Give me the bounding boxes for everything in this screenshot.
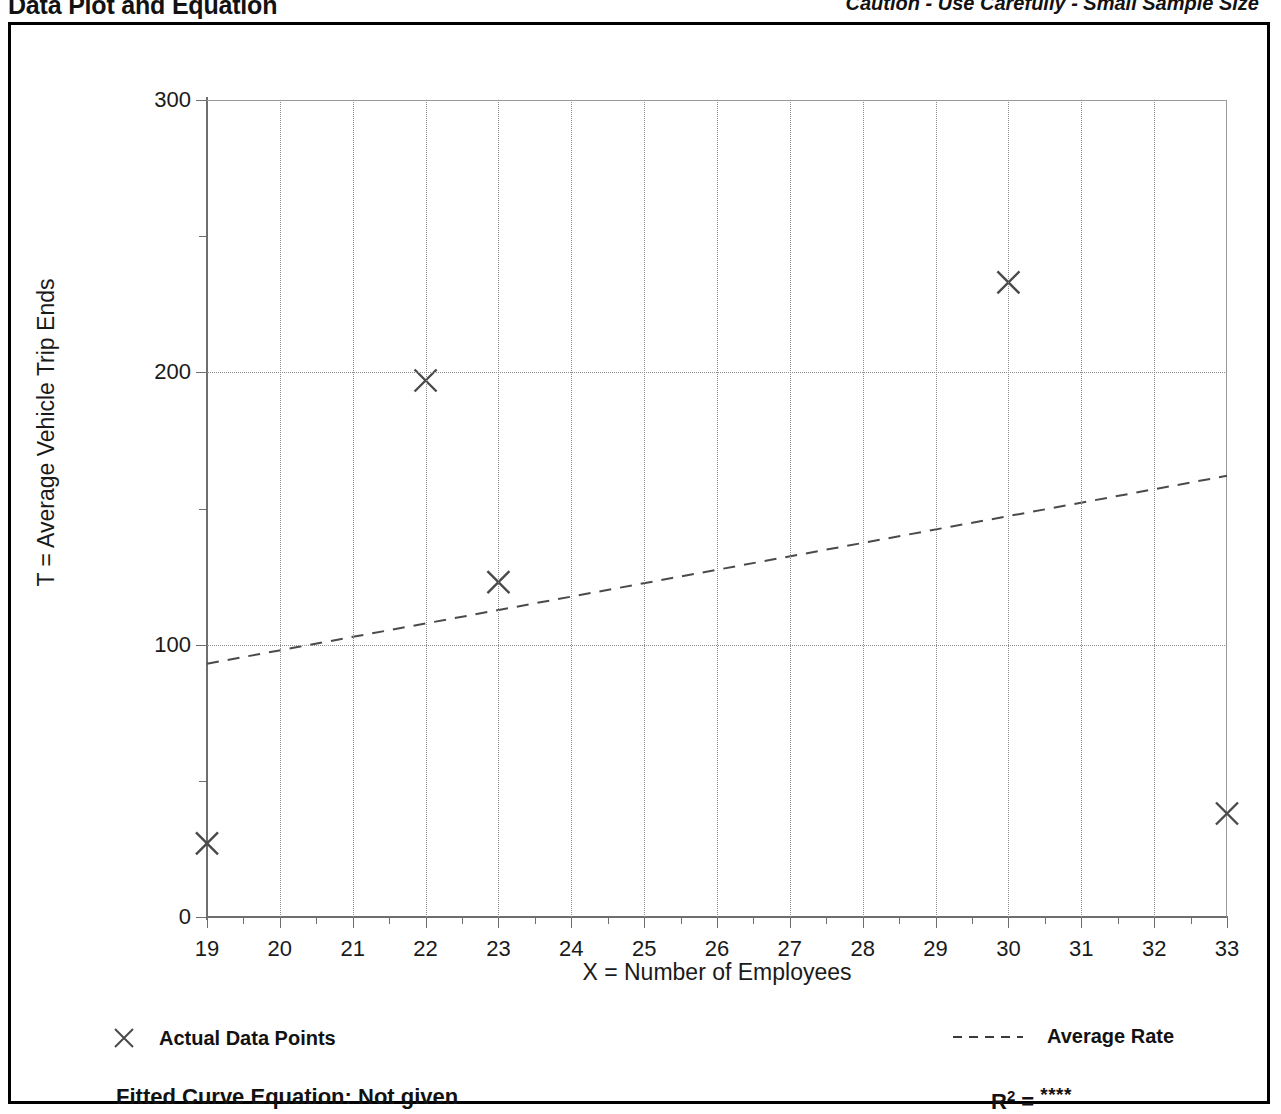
dashed-line-icon [951,1031,1025,1043]
x-axis-minor-tick [826,917,827,924]
plot-area: 0100200300192021222324252627282930313233 [207,100,1227,917]
x-axis-minor-tick [389,917,390,924]
gridline-vertical [498,100,499,917]
gridline-vertical [936,100,937,917]
legend-average-rate: Average Rate [951,1025,1174,1048]
x-axis-tick [426,917,427,928]
legend-label-actual-data-points: Actual Data Points [159,1027,336,1050]
gridline-vertical [1008,100,1009,917]
x-axis-minor-tick [972,917,973,924]
gridline-vertical [1154,100,1155,917]
r-squared-stars: **** [1040,1084,1072,1105]
gridline-vertical [790,100,791,917]
x-axis-tick [863,917,864,928]
x-axis-tick [790,917,791,928]
r-squared-exponent: 2 [1007,1087,1015,1104]
x-axis-title: X = Number of Employees [207,959,1227,986]
x-axis-tick [353,917,354,928]
x-axis-tick [1227,917,1228,928]
r-squared-symbol: R [991,1089,1007,1114]
chart-frame: 0100200300192021222324252627282930313233… [8,22,1270,1104]
x-axis-minor-tick [753,917,754,924]
gridline-vertical [1081,100,1082,917]
x-axis-tick [1154,917,1155,928]
x-axis-minor-tick [535,917,536,924]
fitted-curve-equation: Fitted Curve Equation: Not given [116,1084,458,1110]
r-squared-value: R2 = **** [991,1084,1072,1114]
x-axis-tick [936,917,937,928]
y-axis-minor-tick [199,509,207,510]
legend-actual-data-points: Actual Data Points [111,1025,336,1051]
y-axis-minor-tick [199,236,207,237]
x-axis-minor-tick [608,917,609,924]
x-axis-minor-tick [681,917,682,924]
gridline-vertical [571,100,572,917]
x-axis-minor-tick [243,917,244,924]
gridline-vertical [353,100,354,917]
y-axis-tick [196,645,207,646]
y-axis-tick-label: 0 [121,904,191,930]
gridline-vertical [863,100,864,917]
x-axis-tick [1081,917,1082,928]
y-axis-tick [196,372,207,373]
x-axis-minor-tick [899,917,900,924]
x-axis-tick [644,917,645,928]
legend-label-average-rate: Average Rate [1047,1025,1174,1048]
x-axis-tick [1008,917,1009,928]
x-axis-minor-tick [1118,917,1119,924]
page-title: Data Plot and Equation [8,0,277,20]
y-axis-tick-label: 300 [121,87,191,113]
gridline-vertical [426,100,427,917]
y-axis-tick-label: 100 [121,632,191,658]
r-squared-equals: = [1015,1089,1040,1114]
data-point-marker [1216,803,1238,825]
x-axis-tick [571,917,572,928]
data-point-marker [196,832,218,854]
gridline-vertical [644,100,645,917]
page-header: Data Plot and Equation Caution - Use Car… [0,0,1281,22]
gridline-vertical [717,100,718,917]
x-axis-minor-tick [316,917,317,924]
x-axis-tick [717,917,718,928]
y-axis-title: T = Average Vehicle Trip Ends [33,113,60,753]
chart-page: Data Plot and Equation Caution - Use Car… [0,0,1281,1114]
x-axis-tick [280,917,281,928]
caution-note: Caution - Use Carefully - Small Sample S… [846,0,1259,15]
x-axis-minor-tick [1045,917,1046,924]
gridline-vertical [280,100,281,917]
y-axis-tick [196,917,207,918]
y-axis-tick [196,100,207,101]
x-axis-tick [207,917,208,928]
x-axis-tick [498,917,499,928]
x-axis-minor-tick [1191,917,1192,924]
y-axis-minor-tick [199,781,207,782]
x-marker-icon [111,1025,137,1051]
y-axis-tick-label: 200 [121,359,191,385]
x-axis-minor-tick [462,917,463,924]
